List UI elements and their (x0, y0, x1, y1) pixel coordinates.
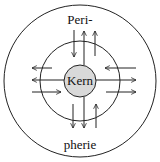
label-bottom-periphery: pherie (64, 137, 97, 152)
label-top-periphery: Peri- (67, 12, 92, 27)
core-periphery-diagram: Peri- Kern pherie (0, 0, 160, 162)
label-core: Kern (67, 73, 93, 88)
